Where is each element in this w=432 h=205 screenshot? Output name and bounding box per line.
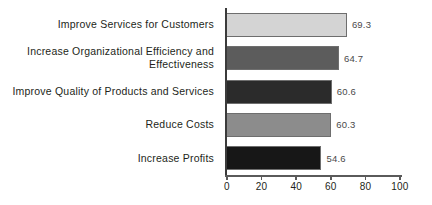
bar-value-label: 60.3 bbox=[336, 119, 355, 130]
bar-chart: Improve Services for Customers Increase … bbox=[0, 0, 432, 205]
x-axis-tick-mark bbox=[399, 175, 401, 180]
bar-value-label: 54.6 bbox=[326, 153, 345, 164]
bar-row: 54.6 bbox=[227, 142, 400, 175]
category-label: Improve Services for Customers bbox=[0, 8, 222, 41]
bar-row: 60.6 bbox=[227, 75, 400, 108]
bar-value-label: 69.3 bbox=[352, 19, 371, 30]
bar bbox=[227, 146, 321, 170]
x-axis-tick-mark bbox=[226, 175, 228, 180]
x-axis-tick-mark bbox=[330, 175, 332, 180]
bar bbox=[227, 113, 331, 137]
category-label: Increase Organizational Efficiency and E… bbox=[0, 41, 222, 74]
x-axis-ticks: 020406080100 bbox=[227, 175, 400, 203]
category-label: Increase Profits bbox=[0, 142, 222, 175]
bar-row: 69.3 bbox=[227, 8, 400, 41]
x-axis-tick-label: 20 bbox=[256, 181, 268, 192]
x-axis-tick-label: 80 bbox=[360, 181, 372, 192]
category-label: Improve Quality of Products and Services bbox=[0, 75, 222, 108]
bar-value-label: 60.6 bbox=[337, 86, 356, 97]
bar bbox=[227, 46, 339, 70]
plot-area: 69.3 64.7 60.6 60.3 54.6 bbox=[227, 8, 400, 175]
category-label-list: Improve Services for Customers Increase … bbox=[0, 8, 222, 175]
bar bbox=[227, 13, 347, 37]
bar bbox=[227, 80, 332, 104]
bar-row: 64.7 bbox=[227, 41, 400, 74]
x-axis-tick-mark bbox=[295, 175, 297, 180]
category-label: Reduce Costs bbox=[0, 108, 222, 141]
bar-value-label: 64.7 bbox=[344, 53, 363, 64]
x-axis-tick-label: 60 bbox=[325, 181, 337, 192]
x-axis-tick-label: 100 bbox=[391, 181, 408, 192]
bar-row: 60.3 bbox=[227, 108, 400, 141]
x-axis-tick-label: 0 bbox=[224, 181, 230, 192]
x-axis-tick-mark bbox=[261, 175, 263, 180]
x-axis-tick-label: 40 bbox=[290, 181, 302, 192]
bar-series: 69.3 64.7 60.6 60.3 54.6 bbox=[227, 8, 400, 175]
x-axis-tick-mark bbox=[365, 175, 367, 180]
